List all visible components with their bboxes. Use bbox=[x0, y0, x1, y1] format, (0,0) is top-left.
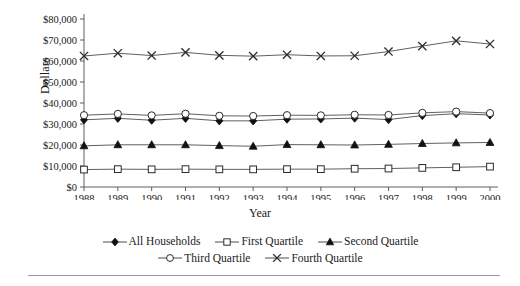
x-axis-tick-label: 2000 bbox=[480, 193, 501, 200]
x-axis-tick-label: 1996 bbox=[344, 193, 365, 200]
marker-open-circle bbox=[283, 112, 290, 119]
marker-open-circle bbox=[486, 109, 493, 116]
legend-item-all-households[interactable]: All Households bbox=[102, 233, 201, 249]
chart-series bbox=[81, 163, 494, 173]
chart-series bbox=[80, 138, 494, 149]
legend-item-second-quartile[interactable]: Second Quartile bbox=[317, 233, 418, 249]
marker-open-circle bbox=[167, 255, 174, 262]
marker-filled-triangle bbox=[182, 141, 190, 148]
marker-open-square bbox=[224, 239, 230, 245]
legend-item-label: Third Quartile bbox=[184, 252, 250, 264]
marker-open-circle bbox=[351, 111, 358, 118]
marker-open-square bbox=[385, 165, 392, 172]
y-axis-tick-label: $50,000 bbox=[43, 77, 77, 88]
x-axis-tick-label: 1998 bbox=[412, 193, 433, 200]
x-axis-title: Year bbox=[0, 206, 520, 221]
marker-open-circle bbox=[148, 112, 155, 119]
marker-filled-triangle bbox=[283, 140, 291, 147]
marker-open-square bbox=[317, 166, 324, 173]
y-axis-tick-label: $30,000 bbox=[43, 119, 77, 130]
x-axis-tick-label: 1999 bbox=[446, 193, 467, 200]
x-axis-tick-label: 1997 bbox=[378, 193, 399, 200]
marker-open-circle bbox=[182, 110, 189, 117]
marker-open-circle bbox=[453, 108, 460, 115]
chart-series bbox=[80, 108, 493, 120]
legend-row-2: Third QuartileFourth Quartile bbox=[0, 249, 520, 265]
x-axis-tick-label: 1992 bbox=[209, 193, 230, 200]
marker-open-square bbox=[419, 165, 426, 172]
marker-open-square bbox=[351, 165, 358, 172]
legend-item-first-quartile[interactable]: First Quartile bbox=[214, 233, 303, 249]
marker-open-circle bbox=[80, 112, 87, 119]
marker-open-square bbox=[182, 166, 189, 173]
marker-open-circle bbox=[385, 111, 392, 118]
legend-marker-filled-diamond bbox=[102, 235, 128, 249]
marker-open-square bbox=[284, 166, 291, 173]
x-axis-tick-label: 1995 bbox=[310, 193, 331, 200]
marker-open-circle bbox=[317, 112, 324, 119]
marker-open-circle bbox=[216, 112, 223, 119]
marker-filled-triangle bbox=[452, 139, 460, 146]
x-axis-tick-label: 1993 bbox=[243, 193, 264, 200]
marker-filled-triangle bbox=[486, 138, 494, 145]
marker-open-square bbox=[148, 166, 155, 173]
x-axis-tick-label: 1989 bbox=[107, 193, 128, 200]
marker-open-circle bbox=[114, 110, 121, 117]
legend-marker-filled-triangle bbox=[317, 235, 343, 249]
marker-filled-triangle bbox=[215, 142, 223, 149]
legend-marker-x-cross bbox=[264, 251, 290, 265]
legend-item-third-quartile[interactable]: Third Quartile bbox=[157, 250, 250, 266]
x-axis-tick-label: 1988 bbox=[74, 193, 95, 200]
marker-open-square bbox=[453, 164, 460, 171]
marker-filled-triangle bbox=[326, 238, 333, 245]
chart-figure: Dollars $0$10,000$20,000$30,000$40,000$5… bbox=[0, 0, 520, 286]
y-axis-tick-label: $10,000 bbox=[43, 161, 77, 172]
chart-plot-area: $0$10,000$20,000$30,000$40,000$50,000$60… bbox=[0, 0, 520, 200]
chart-legend: All HouseholdsFirst QuartileSecond Quart… bbox=[0, 233, 520, 266]
x-axis-tick-label: 1990 bbox=[141, 193, 162, 200]
x-axis-tick-label: 1991 bbox=[175, 193, 196, 200]
marker-filled-triangle bbox=[114, 141, 122, 148]
legend-row-1: All HouseholdsFirst QuartileSecond Quart… bbox=[0, 233, 520, 249]
chart-series bbox=[80, 37, 494, 61]
marker-filled-triangle bbox=[418, 139, 426, 146]
marker-filled-triangle bbox=[351, 141, 359, 148]
legend-item-fourth-quartile[interactable]: Fourth Quartile bbox=[264, 250, 362, 266]
marker-filled-diamond bbox=[111, 238, 118, 246]
marker-filled-triangle bbox=[148, 141, 156, 148]
x-axis-tick-label: 1994 bbox=[277, 193, 299, 200]
marker-open-square bbox=[216, 166, 223, 173]
legend-item-label: First Quartile bbox=[241, 235, 303, 247]
y-axis-tick-label: $0 bbox=[67, 182, 78, 193]
marker-filled-triangle bbox=[385, 140, 393, 147]
legend-item-label: Fourth Quartile bbox=[291, 252, 362, 264]
legend-item-label: Second Quartile bbox=[344, 235, 418, 247]
marker-open-circle bbox=[419, 109, 426, 116]
y-axis-tick-label: $70,000 bbox=[43, 35, 77, 46]
footer-divider bbox=[28, 275, 500, 276]
y-axis-tick-label: $60,000 bbox=[43, 56, 77, 67]
y-axis-tick-label: $40,000 bbox=[43, 98, 77, 109]
marker-open-square bbox=[487, 163, 494, 170]
legend-item-label: All Households bbox=[129, 235, 201, 247]
marker-open-square bbox=[114, 166, 121, 173]
y-axis-tick-label: $80,000 bbox=[43, 14, 77, 25]
marker-open-square bbox=[250, 166, 257, 173]
legend-marker-open-circle bbox=[157, 251, 183, 265]
y-axis-tick-label: $20,000 bbox=[43, 140, 77, 151]
marker-open-square bbox=[81, 166, 88, 173]
marker-open-circle bbox=[250, 112, 257, 119]
marker-filled-triangle bbox=[317, 141, 325, 148]
legend-marker-open-square bbox=[214, 235, 240, 249]
